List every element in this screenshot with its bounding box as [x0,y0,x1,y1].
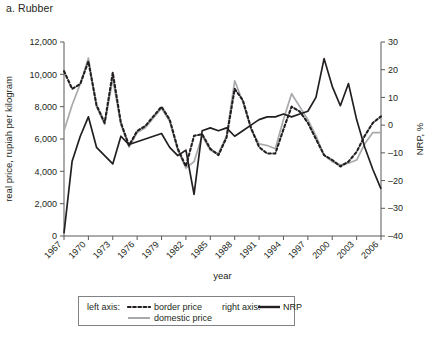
chart-panel: a. Rubber 02,0004,0006,0008,00010,00012,… [0,0,435,340]
y-tick-label-left: 12,000 [29,37,57,47]
x-tick-label: 1976 [115,239,136,260]
y-tick-label-right: 20 [388,65,398,75]
x-tick-label: 1970 [67,239,88,260]
y-axis-title-left: real price, rupiah per kilogram [3,76,14,202]
axis-labels-group: 02,0004,0006,0008,00010,00012,000–40–30–… [3,37,425,281]
x-tick-label: 2000 [310,239,331,260]
x-tick-label: 1973 [91,239,112,260]
y-tick-label-left: 8,000 [34,102,57,112]
legend-right-axis-label: right axis: [222,302,261,312]
x-tick-label: 1994 [262,239,283,260]
y-tick-label-right: 0 [388,120,393,130]
y-tick-label-left: 10,000 [29,70,57,80]
legend-swatch-nrp [257,302,281,312]
legend-label-domestic-price: domestic price [154,313,212,323]
series-line-border-price [64,61,381,166]
y-tick-label-right: –20 [388,176,403,186]
series-group [64,58,381,233]
x-axis-title: year [213,270,231,281]
x-tick-label: 1985 [188,239,209,260]
x-tick-label: 1988 [213,239,234,260]
y-tick-label-right: –40 [388,231,403,241]
legend-swatch-border-price [127,302,151,312]
rubber-price-nrp-chart: 02,0004,0006,0008,00010,00012,000–40–30–… [0,0,435,340]
x-tick-label: 2006 [359,239,380,260]
x-tick-label: 1997 [286,239,307,260]
y-tick-label-left: 2,000 [34,199,57,209]
axes-group [60,42,385,240]
x-tick-label: 2003 [335,239,356,260]
x-tick-label: 1967 [42,239,63,260]
x-tick-label: 1982 [164,239,185,260]
legend-label-border-price: border price [154,302,202,312]
legend-left-axis-label: left axis: [87,302,120,312]
y-tick-label-right: 10 [388,93,398,103]
legend-label-nrp: NRP [283,302,302,312]
x-tick-label: 1979 [140,239,161,260]
chart-legend: left axis: border price domestic price r… [78,296,295,326]
y-tick-label-right: –30 [388,203,403,213]
y-axis-title-right: NRP, % [414,122,425,155]
legend-swatch-domestic-price [127,313,151,323]
y-tick-label-left: 4,000 [34,167,57,177]
y-tick-label-right: –10 [388,148,403,158]
y-tick-label-left: 6,000 [34,134,57,144]
x-tick-label: 1991 [237,239,258,260]
y-tick-label-right: 30 [388,37,398,47]
